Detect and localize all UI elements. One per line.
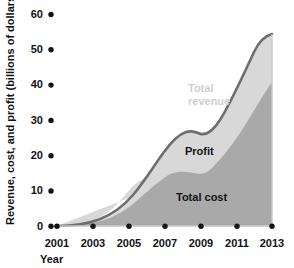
x-tick-dot [90, 224, 95, 229]
x-tick-label: 2007 [153, 237, 177, 249]
y-axis-title: Revenue, cost, and profit (billions of d… [4, 0, 16, 225]
x-tick-label: 2009 [189, 237, 213, 249]
x-tick-dot [198, 224, 203, 229]
y-tick-dot [48, 12, 53, 17]
x-tick-dot [126, 224, 131, 229]
y-tick-label: 60 [31, 8, 43, 20]
annotation-profit: Profit [185, 145, 214, 157]
chart-figure: Total revenue Profit Total cost Revenue,… [0, 0, 294, 268]
x-tick-label: 2001 [45, 237, 69, 249]
annotation-total-revenue-line2: revenue [188, 95, 230, 107]
annotation-total-cost: Total cost [176, 191, 227, 203]
x-tick-dot [234, 224, 239, 229]
x-tick-label: 2011 [225, 237, 249, 249]
y-tick-dot [48, 224, 53, 229]
x-tick-label: 2013 [260, 237, 284, 249]
x-tick-dot [162, 224, 167, 229]
y-tick-dot [48, 82, 53, 87]
y-tick-label: 30 [31, 114, 43, 126]
x-tick-dot [54, 224, 59, 229]
y-tick-dot [48, 153, 53, 158]
area-chart: Total revenue Profit Total cost Revenue,… [0, 0, 294, 268]
annotation-total-revenue-line1: Total [188, 82, 213, 94]
y-tick-dot [48, 47, 53, 52]
y-tick-dot [48, 188, 53, 193]
y-tick-label: 10 [31, 184, 43, 196]
x-tick-dot [269, 224, 274, 229]
x-axis-title: Year [40, 253, 64, 265]
y-tick-label: 50 [31, 43, 43, 55]
x-tick-label: 2005 [117, 237, 141, 249]
y-tick-dot [48, 118, 53, 123]
y-tick-label: 0 [37, 220, 43, 232]
y-tick-label: 40 [31, 78, 43, 90]
x-tick-label: 2003 [81, 237, 105, 249]
y-tick-label: 20 [31, 149, 43, 161]
